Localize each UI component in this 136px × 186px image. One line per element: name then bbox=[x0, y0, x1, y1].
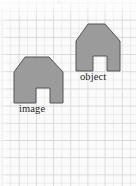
geometry-figure-canvas: p image object bbox=[0, 0, 136, 186]
object-polygon bbox=[76, 24, 120, 71]
shapes-layer bbox=[0, 0, 136, 186]
image-polygon bbox=[14, 57, 63, 103]
object-shape-label: object bbox=[80, 71, 106, 82]
image-shape-label: image bbox=[19, 103, 45, 114]
